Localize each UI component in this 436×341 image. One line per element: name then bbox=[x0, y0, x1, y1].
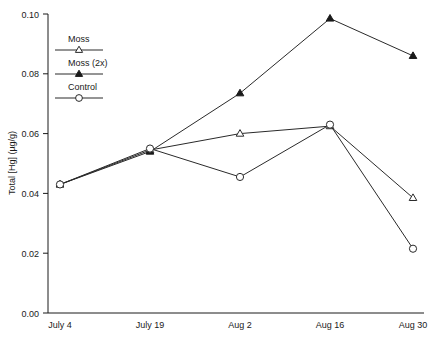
x-tick-label-1: July 19 bbox=[136, 320, 165, 330]
x-tick-label-2: Aug 2 bbox=[228, 320, 252, 330]
y-axis-title: Total [Hg] (µg/g) bbox=[7, 131, 17, 195]
y-tick-label-4: 0.08 bbox=[21, 69, 39, 79]
y-tick-marks bbox=[43, 14, 48, 313]
y-tick-label-2: 0.04 bbox=[21, 189, 39, 199]
data-point bbox=[236, 173, 243, 180]
data-point bbox=[236, 89, 244, 96]
x-tick-label-0: July 4 bbox=[48, 320, 72, 330]
x-tick-label-3: Aug 16 bbox=[316, 320, 345, 330]
legend-label-moss: Moss bbox=[68, 34, 90, 44]
x-tick-label-4: Aug 30 bbox=[399, 320, 428, 330]
data-point bbox=[409, 245, 416, 252]
y-tick-label-1: 0.02 bbox=[21, 249, 39, 259]
chart-page: 0.00 0.02 0.04 0.06 0.08 0.10 Total [Hg]… bbox=[0, 0, 436, 341]
chart-legend: Moss Moss (2x) Control bbox=[55, 34, 108, 101]
series-line bbox=[60, 126, 413, 198]
data-point bbox=[326, 121, 333, 128]
series-moss-2x bbox=[56, 14, 417, 187]
legend-label-moss-2x: Moss (2x) bbox=[68, 58, 108, 68]
data-point bbox=[409, 194, 417, 201]
legend-item-control: Control bbox=[55, 82, 103, 101]
data-point bbox=[56, 181, 63, 188]
series-moss bbox=[56, 122, 417, 200]
legend-label-control: Control bbox=[68, 82, 97, 92]
y-tick-label-0: 0.00 bbox=[21, 309, 39, 319]
legend-item-moss-2x: Moss (2x) bbox=[55, 58, 108, 76]
data-point bbox=[326, 14, 334, 21]
line-chart: 0.00 0.02 0.04 0.06 0.08 0.10 Total [Hg]… bbox=[0, 0, 436, 341]
y-tick-label-3: 0.06 bbox=[21, 129, 39, 139]
data-point bbox=[146, 145, 153, 152]
series-line bbox=[60, 125, 413, 249]
series-layer bbox=[56, 14, 417, 252]
legend-item-moss: Moss bbox=[55, 34, 103, 52]
y-tick-label-5: 0.10 bbox=[21, 10, 39, 20]
series-control bbox=[56, 121, 416, 252]
series-line bbox=[60, 18, 413, 184]
